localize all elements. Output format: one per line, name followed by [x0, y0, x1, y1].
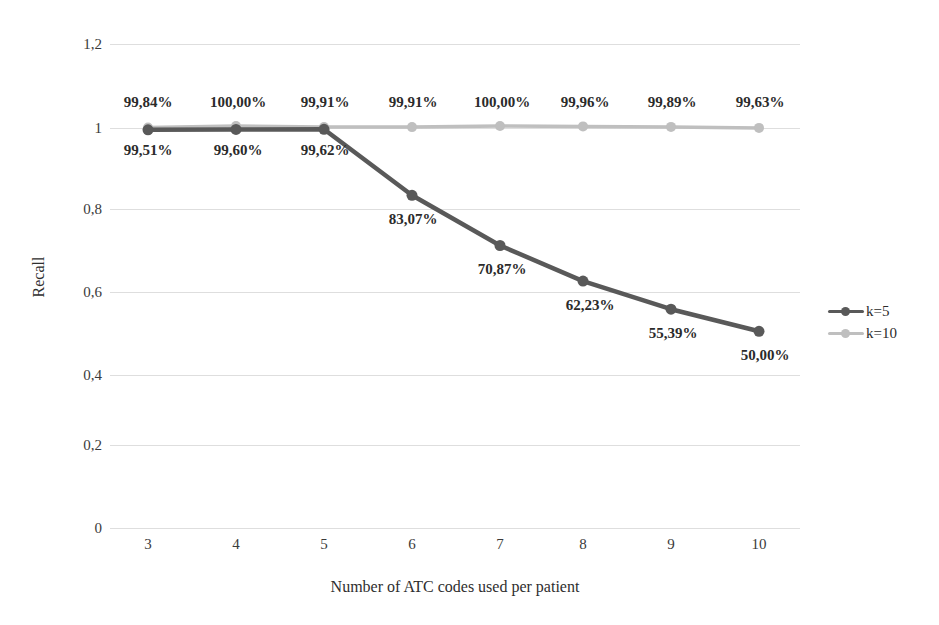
gridline-0.6	[110, 292, 800, 293]
x-tick-label: 6	[408, 536, 416, 553]
data-label-k10: 99,89%	[648, 94, 697, 110]
gridline-0.2	[110, 445, 800, 446]
gridline-0.0	[110, 528, 800, 529]
data-label-k10: 99,84%	[124, 94, 173, 110]
x-tick-label: 8	[579, 536, 587, 553]
legend-label-k10: k=10	[866, 326, 897, 341]
gridline-0.4	[110, 375, 800, 376]
gridline-1.2	[110, 44, 800, 45]
legend: k=5 k=10	[828, 300, 932, 344]
y-tick-label: 0	[54, 521, 102, 536]
legend-item-k5[interactable]: k=5	[828, 300, 932, 322]
plot-area	[110, 44, 800, 528]
y-tick-label: 0,8	[54, 202, 102, 217]
x-tick-label: 3	[144, 536, 152, 553]
data-label-k5: 62,23%	[566, 297, 615, 313]
y-axis-ticks: 1,2 1 0,8 0,6 0,4 0,2 0	[44, 44, 102, 528]
recall-line-chart: 1,2 1 0,8 0,6 0,4 0,2 0 3 4 5 6 7 8 9 10…	[0, 0, 939, 625]
y-tick-label: 1	[54, 121, 102, 136]
data-label-k10: 99,96%	[561, 94, 610, 110]
gridline-1.0	[110, 128, 800, 129]
gridline-0.8	[110, 209, 800, 210]
data-label-k5: 99,60%	[214, 142, 263, 158]
legend-swatch-k10-icon	[828, 326, 864, 340]
data-label-k10: 99,91%	[389, 94, 438, 110]
legend-label-k5: k=5	[866, 304, 889, 319]
y-tick-label: 0,4	[54, 368, 102, 383]
data-label-k5: 99,51%	[124, 142, 173, 158]
legend-swatch-k5-icon	[828, 304, 864, 318]
data-label-k5: 83,07%	[389, 211, 438, 227]
data-label-k5: 50,00%	[741, 347, 790, 363]
y-tick-label: 0,6	[54, 285, 102, 300]
data-label-k5: 70,87%	[478, 261, 527, 277]
data-label-k10: 100,00%	[210, 94, 266, 110]
x-tick-label: 4	[232, 536, 240, 553]
x-axis-ticks: 3 4 5 6 7 8 9 10	[110, 536, 800, 560]
y-axis-title: Recall	[30, 232, 48, 322]
x-tick-label: 9	[667, 536, 675, 553]
x-tick-label: 10	[752, 536, 767, 553]
data-label-k10: 100,00%	[474, 94, 530, 110]
x-axis-title: Number of ATC codes used per patient	[110, 578, 800, 596]
data-label-k5: 99,62%	[301, 142, 350, 158]
y-tick-label: 0,2	[54, 438, 102, 453]
legend-item-k10[interactable]: k=10	[828, 322, 932, 344]
y-tick-label: 1,2	[54, 37, 102, 52]
data-label-k5: 55,39%	[649, 325, 698, 341]
x-tick-label: 5	[320, 536, 328, 553]
x-tick-label: 7	[496, 536, 504, 553]
data-label-k10: 99,91%	[301, 94, 350, 110]
data-label-k10: 99,63%	[736, 94, 785, 110]
